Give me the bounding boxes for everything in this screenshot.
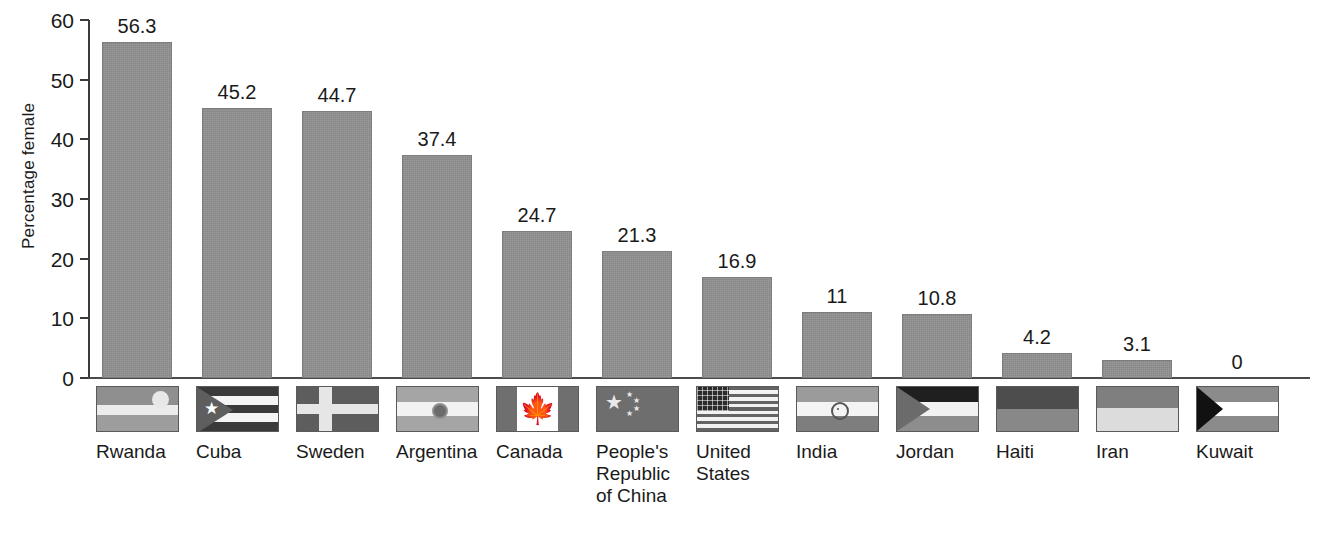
bar-chart-percentage-female: Percentage female 6050403020100 56.345.2… bbox=[0, 0, 1318, 533]
bar[interactable] bbox=[1102, 360, 1172, 378]
country-label: United States bbox=[696, 441, 794, 485]
argentina-flag-icon bbox=[396, 386, 479, 432]
chakra-wheel-icon bbox=[831, 402, 849, 420]
y-axis-tick-label: 50 bbox=[16, 70, 74, 91]
bar-column: 44.7 bbox=[294, 20, 394, 378]
bar-value-label: 11 bbox=[794, 286, 880, 306]
bar-column: 4.2 bbox=[994, 20, 1094, 378]
x-axis-category-item: Haiti bbox=[994, 386, 1094, 463]
y-axis-tick-label: 40 bbox=[16, 129, 74, 150]
star-emblem-icon: ★ bbox=[204, 400, 219, 417]
country-label: Cuba bbox=[196, 441, 294, 463]
bar-column: 24.7 bbox=[494, 20, 594, 378]
cuba-flag-icon: ★ bbox=[196, 386, 279, 432]
bar-value-label: 45.2 bbox=[194, 82, 280, 102]
bar-value-label: 10.8 bbox=[894, 288, 980, 308]
bar[interactable] bbox=[302, 111, 372, 378]
canada-flag-icon: 🍁 bbox=[496, 386, 579, 432]
bar-column: 21.3 bbox=[594, 20, 694, 378]
iran-flag-icon bbox=[1096, 386, 1179, 432]
stars-canton-icon bbox=[697, 387, 729, 411]
bar-value-label: 16.9 bbox=[694, 251, 780, 271]
bar-column: 11 bbox=[794, 20, 894, 378]
x-axis-category-item: United States bbox=[694, 386, 794, 485]
bar[interactable] bbox=[502, 231, 572, 378]
bar-column: 3.1 bbox=[1094, 20, 1194, 378]
y-axis-tick-label: 30 bbox=[16, 189, 74, 210]
sweden-flag-icon bbox=[296, 386, 379, 432]
bar-column: 37.4 bbox=[394, 20, 494, 378]
bar-value-label: 56.3 bbox=[94, 16, 180, 36]
bar-value-label: 4.2 bbox=[994, 327, 1080, 347]
country-label: Kuwait bbox=[1196, 441, 1294, 463]
star-emblem-icon: ★ bbox=[605, 392, 623, 412]
x-axis-category-item: Rwanda bbox=[94, 386, 194, 463]
bar[interactable] bbox=[102, 42, 172, 378]
bar[interactable] bbox=[1002, 353, 1072, 378]
bar-column: 0 bbox=[1194, 20, 1294, 378]
x-axis-category-item: Iran bbox=[1094, 386, 1194, 463]
maple-leaf-icon: 🍁 bbox=[497, 387, 578, 431]
country-label: Sweden bbox=[296, 441, 394, 463]
bar[interactable] bbox=[202, 108, 272, 378]
country-label: Jordan bbox=[896, 441, 994, 463]
x-axis-category-item: ★Cuba bbox=[194, 386, 294, 463]
x-axis-category-item: Sweden bbox=[294, 386, 394, 463]
bar-column: 16.9 bbox=[694, 20, 794, 378]
rwanda-flag-icon bbox=[96, 386, 179, 432]
bar-column: 45.2 bbox=[194, 20, 294, 378]
bar[interactable] bbox=[802, 312, 872, 378]
country-label: People's Republic of China bbox=[596, 441, 694, 507]
country-label: Iran bbox=[1096, 441, 1194, 463]
y-axis-tick-label: 10 bbox=[16, 308, 74, 329]
y-axis-tick-label: 20 bbox=[16, 249, 74, 270]
bar[interactable] bbox=[402, 155, 472, 378]
country-label: Rwanda bbox=[96, 441, 194, 463]
x-axis-category-item: India bbox=[794, 386, 894, 463]
bar-value-label: 44.7 bbox=[294, 85, 380, 105]
kuwait-flag-icon bbox=[1196, 386, 1279, 432]
country-label: Argentina bbox=[396, 441, 494, 463]
bar[interactable] bbox=[902, 314, 972, 378]
country-label: Haiti bbox=[996, 441, 1094, 463]
plot-area: 56.345.244.737.424.721.316.91110.84.23.1… bbox=[88, 20, 1310, 378]
bar-column: 56.3 bbox=[94, 20, 194, 378]
bar-value-label: 24.7 bbox=[494, 205, 580, 225]
haiti-flag-icon bbox=[996, 386, 1079, 432]
x-axis-category-item: Argentina bbox=[394, 386, 494, 463]
y-axis-tick-label: 60 bbox=[16, 10, 74, 31]
jordan-flag-icon bbox=[896, 386, 979, 432]
x-axis-category-item: Kuwait bbox=[1194, 386, 1294, 463]
india-flag-icon bbox=[796, 386, 879, 432]
x-axis-category-item: 🍁Canada bbox=[494, 386, 594, 463]
x-axis-category-items: Rwanda★CubaSwedenArgentina🍁Canada★★★★★Pe… bbox=[88, 386, 1310, 533]
x-axis-category-item: Jordan bbox=[894, 386, 994, 463]
bar-value-label: 21.3 bbox=[594, 225, 680, 245]
china-flag-icon: ★★★★★ bbox=[596, 386, 679, 432]
bar-column: 10.8 bbox=[894, 20, 994, 378]
bar[interactable] bbox=[702, 277, 772, 378]
bar[interactable] bbox=[602, 251, 672, 378]
sun-emblem-icon bbox=[432, 403, 448, 419]
country-label: Canada bbox=[496, 441, 594, 463]
x-axis-category-item: ★★★★★People's Republic of China bbox=[594, 386, 694, 507]
bar-value-label: 0 bbox=[1194, 352, 1280, 372]
bar-value-label: 3.1 bbox=[1094, 334, 1180, 354]
united-states-flag-icon bbox=[696, 386, 779, 432]
y-axis-tick-label: 0 bbox=[16, 368, 74, 389]
bar-value-label: 37.4 bbox=[394, 129, 480, 149]
country-label: India bbox=[796, 441, 894, 463]
